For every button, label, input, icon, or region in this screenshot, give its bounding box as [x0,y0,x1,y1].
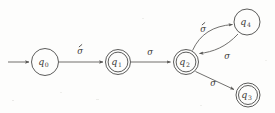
edge-label-q2-to-q3-symbol: σ [210,78,216,88]
state-label-q2-subscript: 2 [186,61,190,68]
state-label-q0-subscript: 0 [45,61,49,68]
edge-label-q1-to-q2-symbol: σ [147,47,153,57]
state-label-q1-base: q [111,56,117,67]
automaton-figure: q 0 q 1 q 2 q 4 q 3 [0,0,275,113]
state-label-q4-base: q [240,16,246,27]
edge-q4-to-q2 [200,34,239,54]
automaton-diagram: q 0 q 1 q 2 q 4 q 3 [0,0,275,113]
state-label-q3-subscript: 3 [248,94,252,101]
state-node-q4[interactable]: q 4 [234,9,260,35]
state-node-q3[interactable]: q 3 [236,83,260,107]
edge-label-q0-to-q1-symbol: σ [77,46,83,56]
edge-label-q4-to-q2: σ [224,51,230,61]
state-node-q0[interactable]: q 0 [32,49,59,76]
state-label-q4-subscript: 4 [247,21,251,28]
state-node-q1[interactable]: q 1 [106,50,131,75]
state-label-q1-subscript: 1 [118,61,122,68]
edge-label-q4-to-q2-symbol: σ [224,51,230,61]
edge-label-q2-to-q4: σ [200,23,206,34]
state-label-q0-base: q [38,56,44,67]
state-label-q3-base: q [241,89,247,100]
state-label-q2-base: q [179,56,185,67]
edge-label-q0-to-q1: σ [77,45,83,56]
edge-label-q1-to-q2: σ [147,47,153,57]
state-node-q2[interactable]: q 2 [174,50,199,75]
edge-q2-to-q4 [193,25,233,51]
edge-label-q2-to-q4-symbol: σ [200,24,206,34]
edge-label-q2-to-q3: σ [210,78,216,88]
